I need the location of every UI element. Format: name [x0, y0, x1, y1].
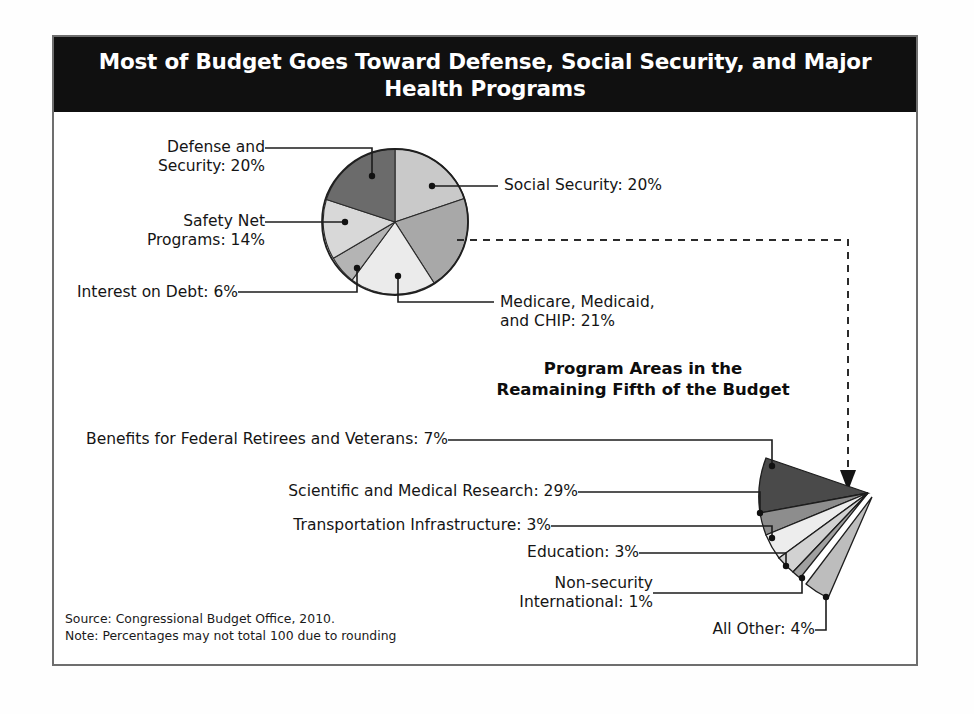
label-safety-net: Safety Net Programs: 14% — [65, 212, 265, 250]
dot-research — [757, 510, 763, 516]
label-defense: Defense and Security: 20% — [65, 138, 265, 176]
leader-interest — [238, 268, 357, 292]
label-medicare: Medicare, Medicaid, and CHIP: 21% — [500, 293, 760, 331]
leader-benefits — [448, 440, 772, 466]
dot-education — [783, 563, 789, 569]
dot-social-security — [429, 183, 435, 189]
label-education: Education: 3% — [439, 543, 639, 562]
leader-all-other — [815, 597, 826, 630]
leader-research — [578, 492, 760, 513]
remaining-fifth-fan — [759, 458, 872, 598]
dot-medicare — [395, 273, 401, 279]
dot-defense — [369, 173, 375, 179]
label-nonsecurity: Non-security International: 1% — [443, 574, 653, 612]
label-all-other: All Other: 4% — [635, 620, 815, 639]
leader-education — [639, 553, 786, 566]
dot-nonsecurity — [799, 575, 805, 581]
label-transportation: Transportation Infrastructure: 3% — [221, 516, 551, 535]
dot-benefits — [769, 463, 775, 469]
dot-transportation — [769, 535, 775, 541]
dashed-connector — [457, 240, 848, 470]
source-note: Source: Congressional Budget Office, 201… — [65, 610, 335, 627]
subheading: Program Areas in the Reamaining Fifth of… — [478, 358, 808, 400]
label-research: Scientific and Medical Research: 29% — [228, 482, 578, 501]
leader-transportation — [551, 526, 772, 538]
dot-interest — [354, 265, 360, 271]
dot-all-other — [823, 594, 829, 600]
label-interest-on-debt: Interest on Debt: 6% — [38, 283, 238, 302]
rounding-note: Note: Percentages may not total 100 due … — [65, 627, 396, 644]
figure-root: Most of Budget Goes Toward Defense, Soci… — [0, 0, 974, 714]
label-benefits: Benefits for Federal Retirees and Vetera… — [48, 430, 448, 449]
leader-nonsecurity — [653, 578, 802, 593]
dot-safety-net — [342, 219, 348, 225]
label-social-security: Social Security: 20% — [504, 176, 764, 195]
